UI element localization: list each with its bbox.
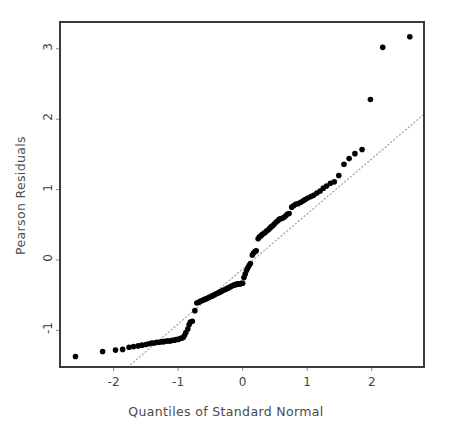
data-point — [380, 45, 386, 51]
data-point — [190, 318, 196, 324]
y-axis-title-wrap: Pearson Residuals — [0, 0, 40, 390]
data-point — [341, 161, 347, 167]
x-tick-label: 2 — [357, 375, 387, 389]
data-point — [253, 248, 259, 254]
data-point — [113, 347, 119, 353]
data-point — [248, 261, 254, 267]
x-axis-title: Quantiles of Standard Normal — [0, 404, 452, 419]
plot-canvas — [0, 0, 452, 439]
data-point — [240, 280, 246, 286]
data-point — [359, 147, 365, 153]
y-tick-label-text: 3 — [41, 43, 55, 51]
y-axis-title: Pearson Residuals — [13, 136, 28, 255]
plot-background — [60, 22, 424, 367]
qq-plot-figure: -2-1012 -10123 Pearson Residuals Quantil… — [0, 0, 452, 439]
data-point — [286, 211, 292, 217]
x-tick-label: 0 — [228, 375, 258, 389]
y-tick-label-text: 2 — [41, 113, 55, 121]
data-point — [407, 34, 413, 40]
data-point — [192, 308, 198, 314]
x-tick-label: 1 — [292, 375, 322, 389]
x-tick-label: -2 — [99, 375, 129, 389]
data-point — [331, 179, 337, 185]
y-tick-label-text: 0 — [41, 254, 55, 262]
data-point — [120, 347, 126, 353]
data-point — [100, 349, 106, 355]
data-point — [336, 173, 342, 179]
data-point — [368, 97, 374, 103]
x-tick-label: -1 — [163, 375, 193, 389]
data-point — [73, 354, 79, 360]
data-point — [346, 156, 352, 162]
y-tick-label-text: 1 — [41, 184, 55, 192]
y-tick-label-text: -1 — [41, 322, 55, 334]
data-point — [352, 151, 358, 157]
